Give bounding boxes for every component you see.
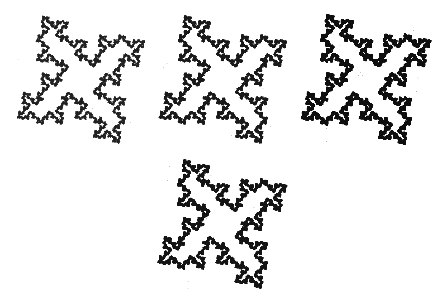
fractal-canvas-2	[158, 13, 288, 146]
fractal-panel-2	[158, 13, 288, 146]
fractal-panel-3	[300, 13, 432, 146]
fractal-canvas-3	[300, 13, 432, 146]
fractal-panel-4	[157, 157, 288, 291]
fractal-panel-1	[16, 13, 146, 146]
fractal-canvas-4	[157, 157, 288, 291]
figure-root	[0, 0, 445, 302]
fractal-canvas-1	[16, 13, 146, 146]
